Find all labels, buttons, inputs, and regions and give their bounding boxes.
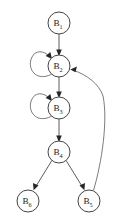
- node-b5[interactable]: B5: [78, 190, 100, 212]
- edge-b4-to-b6: [33, 161, 52, 191]
- node-b2[interactable]: B2: [48, 55, 70, 77]
- diagram-canvas: B1 B2 B3 B4 B6 B5: [0, 0, 115, 221]
- edge-b5-to-b2-back: [70, 67, 105, 191]
- edge-b4-to-b5: [66, 161, 85, 191]
- edge-b3-to-b4: [56, 119, 62, 142]
- node-b3[interactable]: B3: [48, 97, 70, 119]
- node-b1[interactable]: B1: [48, 12, 70, 34]
- node-b4[interactable]: B4: [48, 141, 70, 163]
- edge-b2-to-b3: [56, 77, 62, 98]
- control-flow-graph: B1 B2 B3 B4 B6 B5: [0, 0, 115, 221]
- node-b6[interactable]: B6: [17, 190, 39, 212]
- edge-b1-to-b2: [56, 34, 62, 56]
